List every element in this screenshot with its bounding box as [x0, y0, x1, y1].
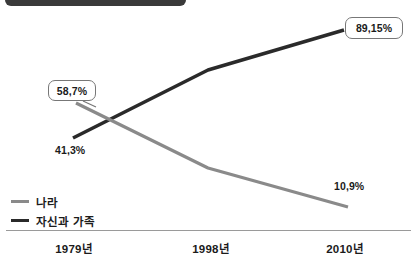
x-axis-tick-label-2010: 2010년 [326, 240, 364, 256]
legend-item-country: 나라 [11, 192, 161, 211]
x-axis-tick-label-1979: 1979년 [55, 240, 93, 256]
value-label-country-2010: 10,9% [334, 180, 364, 192]
value-callout-self-2010: 89,15% [345, 17, 403, 39]
legend-item-country-label: 나라 [36, 194, 58, 210]
line-swatch-country [11, 200, 29, 203]
x-axis-tick-label-1998: 1998년 [192, 240, 230, 256]
x-axis-line [6, 230, 411, 231]
legend: 나라 자신과 가족 [11, 192, 161, 230]
value-callout-self-2010-text: 89,15% [356, 22, 392, 34]
legend-item-self-label: 자신과 가족 [36, 213, 95, 229]
value-label-self-1979: 41,3% [55, 144, 85, 156]
value-callout-country-1979: 58,7% [48, 80, 96, 101]
value-callout-country-1979-text: 58,7% [57, 85, 87, 97]
line-swatch-self [11, 219, 29, 222]
line-chart-figure: 58,7% 89,15% 41,3% 10,9% 나라 자신과 가족 1979년… [0, 0, 417, 265]
legend-item-self: 자신과 가족 [11, 211, 161, 230]
